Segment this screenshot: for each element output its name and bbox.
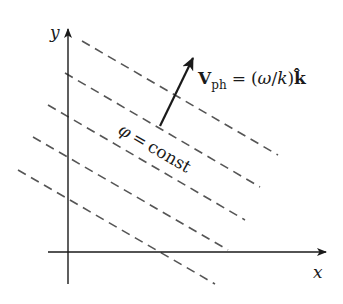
velocity-subscript: ph	[211, 78, 227, 92]
equals-sign: =	[232, 68, 246, 88]
open-paren: (	[251, 68, 258, 88]
wavefront-line	[18, 170, 215, 284]
phase-velocity-diagram: y x Vph=(ω/k)k̂ φ=const	[0, 0, 343, 304]
velocity-symbol: V	[197, 68, 212, 88]
close-paren: )	[287, 68, 294, 88]
const-text: const	[145, 136, 195, 177]
x-axis-label: x	[313, 262, 323, 282]
unit-vector-k-hat: k̂	[293, 68, 307, 88]
wavefront-line	[82, 41, 278, 155]
y-axis-label: y	[49, 22, 60, 42]
phase-velocity-label: Vph=(ω/k)k̂	[197, 68, 307, 92]
phase-velocity-arrow	[160, 58, 193, 126]
omega-symbol: ω	[258, 68, 272, 88]
k-symbol: k	[277, 68, 287, 88]
wavefront-line	[65, 73, 260, 187]
